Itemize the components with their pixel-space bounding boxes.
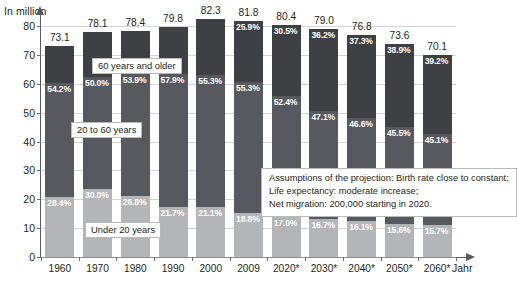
legend-callout-older: 60 years and older (92, 58, 182, 74)
x-tick-mark-9 (381, 257, 382, 261)
x-tick-label-2000: 2000 (199, 263, 222, 274)
segment-20-to-60-2000: 55.3% (196, 75, 225, 206)
y-tick-label-70: 70 (0, 49, 35, 61)
segment-pct-20-to-60-1970: 50.0% (85, 78, 109, 88)
segment-pct-under-20-1960: 28.4% (47, 198, 71, 208)
bar-total-2060*: 70.1 (427, 41, 447, 52)
segment-60-plus-2009: 25.9% (234, 21, 263, 82)
y-tick-label-80: 80 (0, 20, 35, 32)
segment-pct-20-to-60-2030*: 47.1% (311, 112, 335, 122)
bar-total-2030*: 79.0 (314, 15, 334, 26)
y-tick-mark-40 (37, 142, 41, 143)
legend-callout-young: Under 20 years (85, 222, 161, 238)
x-tick-label-2060*: 2060* (424, 263, 451, 274)
segment-60-plus-2060*: 39.2% (423, 55, 452, 134)
x-tick-mark-1 (79, 257, 80, 261)
segment-pct-20-to-60-2040*: 46.6% (349, 119, 373, 129)
x-tick-label-2009: 2009 (237, 263, 260, 274)
y-axis-arrow-icon (36, 6, 44, 15)
x-tick-mark-3 (154, 257, 155, 261)
bar-2000: 21.1%55.3% (196, 19, 225, 257)
segment-20-to-60-1990: 57.9% (159, 74, 188, 207)
x-tick-mark-10 (418, 257, 419, 261)
bar-2030*: 16.7%47.1%36.2% (309, 29, 338, 257)
x-tick-label-1980: 1980 (124, 263, 147, 274)
segment-under-20-2020*: 17.0% (272, 217, 301, 257)
segment-pct-60-plus-2040*: 37.3% (349, 36, 373, 46)
segment-pct-20-to-60-1990: 57.9% (161, 75, 185, 85)
segment-60-plus-2020*: 30.5% (272, 25, 301, 96)
segment-pct-20-to-60-2050*: 45.5% (387, 128, 411, 138)
segment-pct-20-to-60-1980: 53.9% (123, 75, 147, 85)
segment-pct-20-to-60-2060*: 45.1% (425, 135, 449, 145)
y-tick-label-30: 30 (0, 164, 35, 176)
segment-under-20-1990: 21.7% (159, 207, 188, 257)
x-tick-mark-7 (305, 257, 306, 261)
y-tick-label-40: 40 (0, 136, 35, 148)
x-tick-mark-0 (41, 257, 42, 261)
segment-pct-60-plus-2050*: 38.9% (387, 45, 411, 55)
segment-pct-under-20-2040*: 16.1% (349, 222, 373, 232)
y-tick-label-20: 20 (0, 193, 35, 205)
y-tick-mark-50 (37, 113, 41, 114)
assumptions-line-2: Life expectancy: moderate increase; (269, 185, 509, 198)
legend-callout-middle: 20 to 60 years (71, 122, 142, 138)
y-tick-mark-60 (37, 84, 41, 85)
segment-20-to-60-1960: 54.2% (45, 83, 74, 197)
segment-pct-20-to-60-2020*: 52.4% (274, 97, 298, 107)
segment-60-plus-2050*: 38.9% (385, 44, 414, 127)
x-tick-mark-5 (230, 257, 231, 261)
assumptions-annotation-box: Assumptions of the projection: Birth rat… (261, 168, 517, 217)
bar-total-2040*: 76.8 (352, 21, 372, 32)
bar-2009: 18.8%55.3%25.9% (234, 21, 263, 257)
bar-total-1990: 79.8 (163, 13, 183, 24)
bar-2050*: 15.6%45.5%38.9% (385, 44, 414, 257)
segment-pct-60-plus-2009: 25.9% (236, 22, 260, 32)
segment-pct-under-20-2020*: 17.0% (274, 218, 298, 228)
segment-under-20-2030*: 16.7% (309, 219, 338, 257)
x-tick-mark-2 (116, 257, 117, 261)
segment-pct-60-plus-2020*: 30.5% (274, 26, 298, 36)
segment-20-to-60-2009: 55.3% (234, 82, 263, 213)
segment-60-plus-2000 (196, 19, 225, 75)
bar-total-1960: 73.1 (50, 32, 70, 43)
segment-under-20-2000: 21.1% (196, 207, 225, 257)
bar-total-2000: 82.3 (201, 5, 221, 16)
assumptions-line-3: Net migration: 200,000 starting in 2020. (269, 198, 509, 211)
segment-under-20-2060*: 15.7% (423, 225, 452, 257)
bar-total-1980: 78.4 (125, 17, 145, 28)
segment-pct-20-to-60-2009: 55.3% (236, 83, 260, 93)
x-tick-label-2050*: 2050* (386, 263, 413, 274)
x-axis-title: Jahr (452, 262, 472, 274)
y-tick-label-60: 60 (0, 78, 35, 90)
x-tick-mark-end (456, 257, 457, 261)
x-tick-mark-6 (267, 257, 268, 261)
x-tick-mark-4 (192, 257, 193, 261)
segment-under-20-2050*: 15.6% (385, 224, 414, 257)
y-tick-mark-30 (37, 170, 41, 171)
x-tick-label-2030*: 2030* (311, 263, 338, 274)
segment-pct-under-20-2030*: 16.7% (311, 220, 335, 230)
bar-2060*: 15.7%45.1%39.2% (423, 55, 452, 257)
segment-pct-60-plus-2030*: 36.2% (311, 30, 335, 40)
x-tick-label-1960: 1960 (49, 263, 72, 274)
x-tick-label-2040*: 2040* (348, 263, 375, 274)
segment-under-20-1960: 28.4% (45, 197, 74, 257)
segment-pct-60-plus-2060*: 39.2% (425, 56, 449, 66)
x-tick-label-2020*: 2020* (273, 263, 300, 274)
segment-pct-under-20-2000: 21.1% (198, 208, 222, 218)
assumptions-line-1: Assumptions of the projection: Birth rat… (269, 172, 509, 185)
bar-1960: 28.4%54.2% (45, 46, 74, 257)
gridline-0 (41, 257, 456, 258)
segment-pct-under-20-1970: 30.0% (85, 190, 109, 200)
segment-60-plus-2030*: 36.2% (309, 29, 338, 112)
bar-2040*: 16.1%46.6%37.3% (347, 35, 376, 257)
segment-60-plus-2040*: 37.3% (347, 35, 376, 118)
y-tick-mark-80 (37, 26, 41, 27)
segment-pct-under-20-1990: 21.7% (161, 208, 185, 218)
bar-total-2020*: 80.4 (276, 11, 296, 22)
segment-under-20-2040*: 16.1% (347, 221, 376, 257)
x-tick-label-1970: 1970 (86, 263, 109, 274)
x-tick-label-1990: 1990 (162, 263, 185, 274)
